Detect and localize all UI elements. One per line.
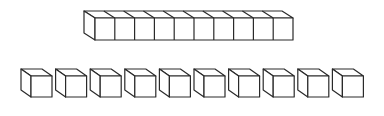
cube-front-face: [31, 76, 52, 97]
unit-cube: [229, 69, 260, 97]
unit-cube: [90, 69, 121, 97]
cube-front-face: [135, 76, 156, 97]
unit-cube: [21, 69, 52, 97]
ten-rod: [84, 11, 293, 40]
unit-cube: [298, 69, 329, 97]
cube-front-face: [66, 76, 87, 97]
cube-front-face: [169, 76, 190, 97]
cube-front-face: [204, 76, 225, 97]
unit-cube: [263, 69, 294, 97]
cube-front-face: [342, 76, 363, 97]
cube-front-face: [308, 76, 329, 97]
unit-cube: [194, 69, 225, 97]
unit-cubes-row: [21, 69, 363, 97]
cube-front-face: [273, 76, 294, 97]
unit-cube: [125, 69, 156, 97]
unit-cube: [56, 69, 87, 97]
unit-cube: [159, 69, 190, 97]
cube-front-face: [100, 76, 121, 97]
base-ten-blocks-diagram: [0, 0, 384, 116]
unit-cube: [332, 69, 363, 97]
cube-front-face: [239, 76, 260, 97]
